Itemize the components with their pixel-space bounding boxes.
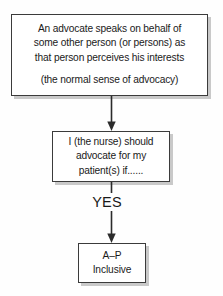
node-condition-line-1: I (the nurse) should — [69, 135, 154, 149]
arrow-definition-to-condition — [104, 96, 120, 132]
node-definition-line-3: that person perceives his interests — [35, 51, 184, 65]
node-outcome-line-2: Inclusive — [93, 263, 132, 277]
node-definition-line-1: An advocate speaks on behalf of — [38, 22, 181, 36]
flowchart-node-condition[interactable]: I (the nurse) should advocate for my pat… — [52, 131, 170, 182]
edge-label-yes: YES — [89, 193, 125, 211]
flowchart-node-definition[interactable]: An advocate speaks on behalf of some oth… — [11, 14, 208, 96]
flowchart-canvas: An advocate speaks on behalf of some oth… — [0, 0, 223, 296]
node-condition-line-3: patient(s) if...... — [79, 164, 144, 178]
node-outcome-line-1: A–P — [103, 249, 122, 263]
node-condition-line-2: advocate for my — [76, 149, 146, 163]
arrow-condition-to-outcome — [104, 182, 120, 244]
flowchart-node-outcome[interactable]: A–P Inclusive — [78, 243, 146, 283]
node-definition-line-2: some other person (or persons) as — [34, 36, 185, 50]
node-definition-line-5: (the normal sense of advocacy) — [41, 73, 179, 87]
